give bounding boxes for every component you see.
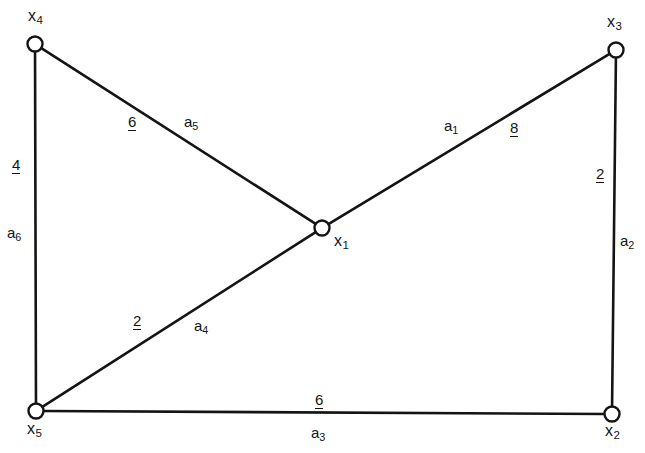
edge-weight-label-a6: 4 [12,157,20,174]
node-label-subscript: 2 [614,429,620,441]
nodes-group [28,37,624,422]
edge-name-subscript: 5 [192,120,198,132]
graph-node-x1 [315,221,330,236]
node-label-subscript: 1 [343,239,349,251]
node-label-base: x [607,13,616,30]
graph-node-x3 [609,43,624,58]
graph-diagram: a18a22a36a42a56a64x4x3x1x5x2 [0,0,645,453]
node-label-x3: x3 [607,14,622,33]
edge-name-label-a2: a2 [620,233,634,251]
edge-name-label-a5: a5 [184,114,198,132]
graph-edge-a1 [328,54,609,224]
node-label-x1: x1 [334,233,349,252]
graph-edge-a4 [42,232,315,407]
edge-weight-label-a1: 8 [510,120,518,137]
edge-name-subscript: 1 [452,124,458,136]
node-label-base: x [27,420,36,437]
edge-name-label-a1: a1 [444,118,458,136]
edge-name-label-a3: a3 [311,425,325,443]
graph-edge-a2 [612,57,616,406]
node-label-base: x [605,422,614,439]
edge-weight-label-a5: 6 [128,114,136,131]
node-label-subscript: 5 [36,427,42,439]
edge-name-label-a6: a6 [7,225,21,243]
edge-weight-label-a3: 6 [315,392,323,409]
graph-node-x5 [29,404,44,419]
graph-edge-a3 [43,411,604,414]
edge-name-subscript: 3 [319,431,325,443]
node-label-subscript: 4 [37,14,43,26]
graph-node-x2 [605,407,620,422]
graph-node-x4 [28,37,43,52]
edge-name-subscript: 4 [202,324,208,336]
edge-name-subscript: 2 [628,239,634,251]
graph-edge-a5 [41,48,315,224]
node-label-x5: x5 [27,421,42,440]
node-label-x4: x4 [28,8,43,27]
node-label-base: x [334,232,343,249]
edge-weight-label-a2: 2 [596,166,604,183]
graph-edge-a6 [35,51,36,403]
edge-name-label-a4: a4 [194,318,208,336]
node-label-base: x [28,7,37,24]
node-label-subscript: 3 [616,20,622,32]
node-label-x2: x2 [605,423,620,442]
graph-canvas [0,0,645,453]
edge-weight-label-a4: 2 [133,313,141,330]
edge-name-subscript: 6 [15,231,21,243]
